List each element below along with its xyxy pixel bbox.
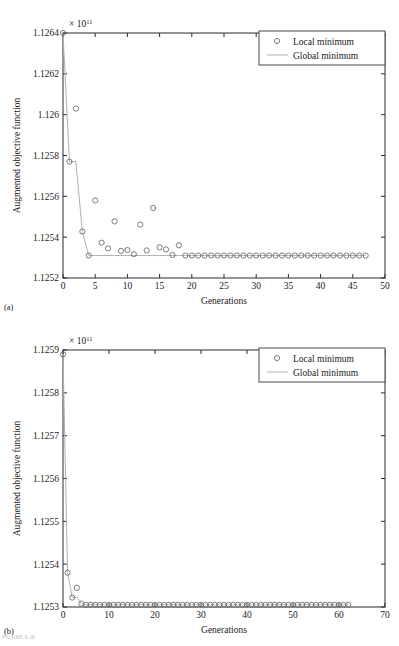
x-tick-label: 50	[288, 610, 298, 620]
y-tick-label: 1.1255	[33, 517, 59, 527]
data-point-marker	[157, 245, 162, 250]
x-tick-label: 20	[187, 281, 197, 291]
data-point-marker	[138, 222, 143, 227]
data-point-marker	[144, 248, 149, 253]
x-axis-title: Generations	[201, 625, 247, 635]
x-tick-label: 35	[284, 281, 294, 291]
x-tick-label: 60	[334, 610, 344, 620]
data-point-marker	[118, 248, 123, 253]
panel-letter: (a)	[4, 302, 14, 312]
x-tick-label: 25	[219, 281, 229, 291]
y-axis-title: Augmented objective function	[12, 97, 22, 213]
y-tick-label: 1.1258	[33, 388, 59, 398]
local-minimum-points	[60, 352, 350, 608]
y-tick-label: 1.1257	[33, 431, 59, 441]
data-point-marker	[170, 252, 175, 257]
y-tick-label: 1.1252	[33, 273, 59, 283]
data-point-marker	[151, 205, 156, 210]
x-tick-label: 70	[380, 610, 390, 620]
x-tick-label: 5	[93, 281, 98, 291]
y-tick-label: 1.1254	[33, 560, 59, 570]
legend-label-global: Global minimum	[293, 51, 359, 61]
data-point-marker	[163, 247, 168, 252]
chart-svg-b: 0102030405060701.12531.12541.12551.12561…	[0, 322, 399, 646]
x-tick-label: 30	[196, 610, 206, 620]
y-tick-label: 1.126	[38, 110, 60, 120]
y-tick-label: 1.1256	[33, 474, 59, 484]
x-tick-label: 40	[242, 610, 252, 620]
x-tick-label: 30	[251, 281, 261, 291]
y-tick-label: 1.1258	[33, 151, 59, 161]
legend-label-global: Global minimum	[293, 368, 359, 378]
y-axis-exponent-power: 11	[86, 18, 92, 25]
data-point-marker	[112, 219, 117, 224]
figure-container: 051015202530354045501.12521.12541.12561.…	[0, 0, 399, 646]
chart-panel-b: 0102030405060701.12531.12541.12551.12561…	[0, 322, 399, 646]
data-point-marker	[99, 240, 104, 245]
x-tick-label: 15	[155, 281, 165, 291]
x-tick-label: 0	[61, 610, 66, 620]
y-tick-label: 1.1259	[33, 345, 59, 355]
y-tick-label: 1.1256	[33, 192, 59, 202]
x-tick-label: 10	[104, 610, 114, 620]
data-point-marker	[93, 198, 98, 203]
figure-caption: FIGURE 6.10	[2, 634, 35, 640]
plot-frame	[63, 33, 385, 278]
global-minimum-line	[63, 354, 348, 605]
y-tick-label: 1.1253	[33, 602, 59, 612]
chart-panel-a: 051015202530354045501.12521.12541.12561.…	[0, 0, 399, 322]
x-tick-label: 50	[380, 281, 390, 291]
global-minimum-line	[63, 33, 366, 256]
y-tick-label: 1.1254	[33, 233, 59, 243]
x-tick-label: 20	[150, 610, 160, 620]
x-tick-label: 40	[316, 281, 326, 291]
data-point-marker	[125, 247, 130, 252]
x-tick-label: 0	[61, 281, 66, 291]
data-point-marker	[74, 585, 79, 590]
y-axis-title: Augmented objective function	[12, 420, 22, 536]
y-axis-exponent: × 1011	[69, 18, 93, 29]
data-point-marker	[176, 243, 181, 248]
x-tick-label: 45	[348, 281, 358, 291]
legend-label-local: Local minimum	[293, 354, 355, 364]
data-point-marker	[73, 106, 78, 111]
chart-svg-a: 051015202530354045501.12521.12541.12561.…	[0, 0, 399, 322]
y-tick-label: 1.1264	[33, 28, 59, 38]
legend-label-local: Local minimum	[293, 37, 355, 47]
data-point-marker	[105, 246, 110, 251]
x-axis-title: Generations	[201, 296, 247, 306]
x-tick-label: 10	[123, 281, 133, 291]
y-axis-exponent-power: 11	[86, 335, 92, 342]
y-tick-label: 1.1262	[33, 69, 59, 79]
plot-frame	[63, 350, 385, 607]
y-axis-exponent: × 1011	[69, 335, 93, 346]
